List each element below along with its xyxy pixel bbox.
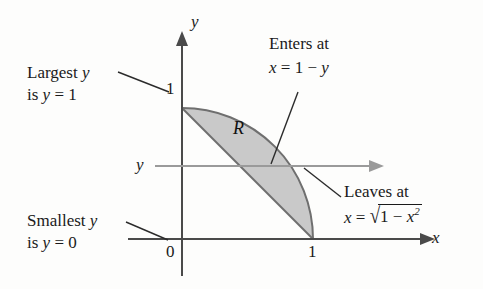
slice-label: y (136, 155, 144, 175)
enters-eq-var: x (269, 58, 277, 77)
annotation-enters-at: Enters at x = 1 − y (269, 33, 329, 79)
annotation-enters-at-line1: Enters at (269, 33, 329, 55)
annotation-smallest-y-line2: is y = 0 (27, 232, 97, 254)
leaves-eq-equals: = (352, 208, 370, 227)
radicand-exponent: 2 (414, 205, 420, 217)
annotation-enters-at-equation: x = 1 − y (269, 57, 329, 79)
radicand-head: 1 − (380, 207, 407, 226)
annotation-smallest-y: Smallest y is y = 0 (27, 210, 97, 254)
largest-y-text: Largest (27, 63, 82, 82)
y-tick-one-label: 1 (166, 79, 175, 99)
annotation-largest-y: Largest y is y = 1 (27, 62, 89, 106)
y-axis-label: y (191, 12, 199, 32)
leader-line-largest-y (118, 72, 169, 92)
region-label-R: R (233, 118, 244, 139)
leader-line-leaves-at (304, 168, 341, 197)
smallest-y-var: y (90, 211, 98, 230)
x-tick-one-label: 1 (308, 242, 317, 262)
annotation-leaves-at-equation: x = √1 − x2 (344, 205, 422, 229)
largest-y-var2: y (43, 85, 51, 104)
enters-eq-tail: y (321, 58, 329, 77)
smallest-y-value: = 0 (50, 233, 77, 252)
leaves-eq-var: x (344, 208, 352, 227)
annotation-largest-y-line2: is y = 1 (27, 84, 89, 106)
region-diagram-figure: y x 0 1 1 y R Largest y is y = 1 Smalles… (0, 0, 483, 289)
smallest-y-prefix: is (27, 233, 43, 252)
largest-y-value: = 1 (50, 85, 77, 104)
leader-line-enters-at (271, 92, 298, 164)
square-root-expression: √1 − x2 (370, 205, 422, 229)
largest-y-var: y (82, 63, 90, 82)
largest-y-prefix: is (27, 85, 43, 104)
annotation-smallest-y-line1: Smallest y (27, 210, 97, 232)
leader-line-smallest-y (126, 222, 168, 240)
annotation-leaves-at: Leaves at x = √1 − x2 (344, 181, 422, 229)
smallest-y-var2: y (43, 233, 51, 252)
smallest-y-text: Smallest (27, 211, 90, 230)
annotation-leaves-at-line1: Leaves at (344, 181, 422, 203)
enters-eq-rhs: = 1 − (277, 58, 322, 77)
origin-tick-label: 0 (166, 242, 175, 262)
radicand: 1 − x2 (378, 204, 422, 228)
x-axis-label: x (432, 228, 440, 248)
annotation-largest-y-line1: Largest y (27, 62, 89, 84)
